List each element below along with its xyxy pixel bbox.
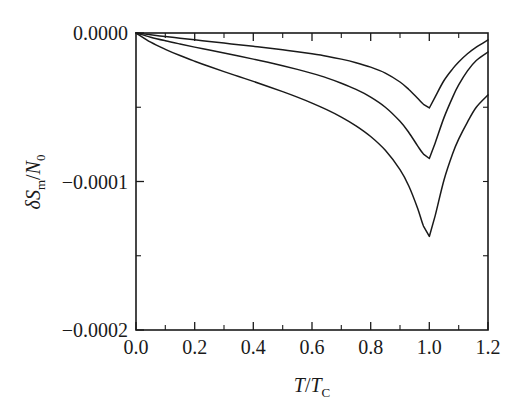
- x-tick-label-4: 0.8: [358, 336, 383, 358]
- y-tick-label-2: −0.0002: [62, 319, 128, 341]
- x-tick-label-1: 0.2: [182, 336, 207, 358]
- x-tick-label-2: 0.4: [241, 336, 266, 358]
- y-tick-label-1: −0.0001: [62, 171, 128, 193]
- svg-text:T/TC: T/TC: [294, 374, 330, 400]
- x-axis-title: T/TC: [294, 374, 330, 400]
- x-axis-title-Tc-subscript: C: [322, 385, 331, 400]
- y-axis-title-S-subscript: m: [33, 180, 48, 190]
- x-axis-top-ticks: [165, 33, 458, 41]
- y-axis-title-S: S: [22, 190, 44, 200]
- chart-svg: 0.0 0.2 0.4 0.6 0.8 1.0 1.2 0.0000 −0.00…: [0, 0, 526, 417]
- x-tick-label-5: 1.0: [417, 336, 442, 358]
- y-axis-title: δSm/N0: [22, 155, 48, 210]
- y-axis-major-ticks: [136, 33, 144, 330]
- curve-line-2: [136, 33, 488, 236]
- y-tick-label-0: 0.0000: [73, 22, 128, 44]
- x-tick-label-3: 0.6: [300, 336, 325, 358]
- x-tick-label-6: 1.2: [476, 336, 501, 358]
- figure-container: 0.0 0.2 0.4 0.6 0.8 1.0 1.2 0.0000 −0.00…: [0, 0, 526, 417]
- y-axis-title-N-subscript: 0: [33, 155, 48, 162]
- svg-text:δSm/N0: δSm/N0: [22, 155, 48, 210]
- plot-frame: [136, 33, 488, 330]
- data-curves: [136, 33, 488, 236]
- curve-line-0: [136, 33, 488, 108]
- x-axis-major-ticks: [136, 322, 488, 330]
